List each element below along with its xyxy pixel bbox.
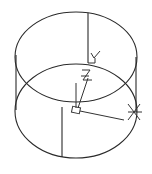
ucs-origin-box xyxy=(71,106,80,114)
y-axis-marker xyxy=(88,51,100,63)
z-axis-label xyxy=(81,70,92,80)
x-axis xyxy=(80,111,124,120)
cylinder-wireframe xyxy=(0,0,152,174)
x-axis-marker xyxy=(128,104,142,120)
drawing-canvas[interactable] xyxy=(0,0,152,174)
z-axis-oblique xyxy=(78,78,88,108)
bottom-ellipse xyxy=(15,64,137,158)
